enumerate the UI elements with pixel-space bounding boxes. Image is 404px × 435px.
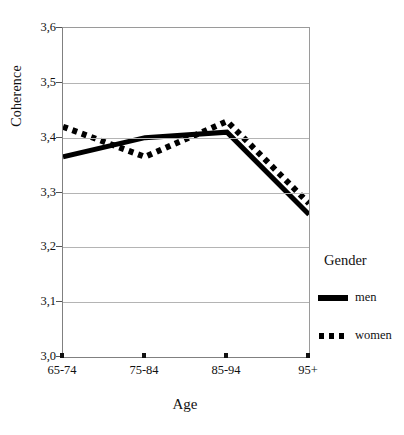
x-tick-mark (306, 353, 310, 358)
y-tick-label: 3,2 (16, 239, 56, 254)
series-line-men (63, 132, 309, 214)
legend-entries: menwomen (318, 287, 404, 345)
x-tick-mark (224, 353, 228, 358)
legend-label-men: men (355, 290, 377, 305)
legend-title: Gender (324, 252, 404, 269)
x-tick-label: 85-94 (186, 363, 266, 378)
y-tick-label: 3,3 (16, 184, 56, 199)
gridline (63, 302, 309, 303)
plot-area (62, 27, 310, 358)
legend-swatch-women (318, 330, 348, 341)
y-tick-label: 3,0 (16, 349, 56, 364)
y-tick-label: 3,6 (16, 20, 56, 35)
gridline (63, 193, 309, 194)
x-tick-label: 65-74 (22, 363, 102, 378)
y-tick-label: 3,1 (16, 294, 56, 309)
gridline (63, 247, 309, 248)
x-tick-label: 75-84 (104, 363, 184, 378)
x-tick-mark (142, 353, 146, 358)
y-tick-label: 3,4 (16, 129, 56, 144)
chart-figure: Coherence 3,03,13,23,33,43,53,6 65-7475-… (0, 0, 404, 435)
gridline (63, 83, 309, 84)
legend-item-men[interactable]: men (318, 287, 404, 307)
legend-swatch-men (318, 292, 348, 303)
gridline (63, 138, 309, 139)
legend-label-women: women (355, 328, 392, 343)
x-axis-title: Age (62, 396, 308, 413)
x-tick-mark (60, 353, 64, 358)
x-tick-label: 95+ (268, 363, 348, 378)
legend-item-women[interactable]: women (318, 325, 404, 345)
y-tick-label: 3,5 (16, 74, 56, 89)
legend: Gender menwomen (318, 252, 404, 363)
